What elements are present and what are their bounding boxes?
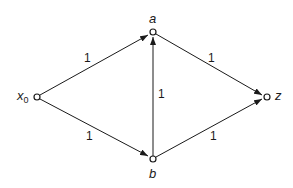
- node-z: [264, 94, 270, 100]
- node-label-b: b: [149, 168, 156, 180]
- node-a: [150, 29, 156, 35]
- edge-x0-a: [40, 35, 148, 95]
- weight-a-z: 1: [208, 52, 215, 64]
- node-label-z: z: [275, 90, 282, 102]
- edge-x0-b: [40, 99, 148, 156]
- node-label-x0-text: x: [17, 88, 24, 103]
- node-x0: [34, 94, 40, 100]
- graph-canvas: [0, 0, 293, 188]
- edge-b-z: [156, 99, 262, 157]
- weight-b-z: 1: [210, 130, 217, 142]
- node-b: [150, 156, 156, 162]
- node-label-x0-subscript: 0: [24, 95, 29, 105]
- weight-x0-a: 1: [84, 52, 91, 64]
- weight-x0-b: 1: [86, 130, 93, 142]
- node-label-x0: x0: [17, 90, 29, 103]
- node-label-a: a: [149, 13, 156, 25]
- weight-b-a: 1: [158, 88, 165, 100]
